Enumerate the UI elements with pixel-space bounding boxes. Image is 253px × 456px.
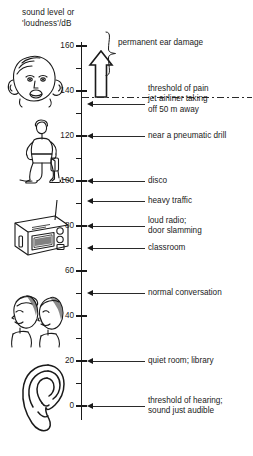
callout-arrowhead-icon [87,403,93,409]
callout-line [93,361,145,362]
callout-label: normal conversation [148,288,222,299]
callout-label: loud radio; door slamming [148,216,202,237]
permanent-ear-damage-brace [104,31,117,81]
callout-line [93,248,145,249]
callout-arrowhead-icon [87,133,93,139]
callout-label: threshold of hearing; sound just audible [148,396,223,417]
axis-title: sound level or 'loudness'/dB [22,7,74,29]
callout-label: near a pneumatic drill [148,131,226,142]
callout-label: disco [148,176,167,187]
y-axis-tick-60 [76,270,87,271]
permanent-ear-damage-label: permanent ear damage [118,38,203,47]
callout-label: jet airliner taking off 50 m away [148,94,208,115]
y-axis-tick-80 [76,225,87,226]
callout-line [93,201,145,202]
y-axis-minor-tick-130 [76,113,81,114]
callout-label: classroom [148,243,185,254]
y-axis-minor-tick-150 [76,68,81,69]
two-faces-conversation-illustration [8,292,72,352]
y-axis-tick-120 [76,135,87,136]
callout-arrowhead-icon [87,290,93,296]
callout-label: quiet room; library [148,356,214,367]
callout-arrowhead-icon [87,178,93,184]
callout-line [93,293,145,294]
threshold-of-pain-label: threshold of pain [148,84,209,93]
y-axis-tick-label-160: 160 [40,41,74,50]
y-axis-minor-tick-10 [76,383,81,384]
y-axis-line [81,42,82,420]
callout-arrowhead-icon [87,223,93,229]
callout-line [93,181,145,182]
y-axis-minor-tick-30 [76,338,81,339]
callout-line [93,136,145,137]
callout-arrowhead-icon [87,101,93,107]
y-axis-tick-140 [76,90,87,91]
callout-label: heavy traffic [148,196,192,207]
ear-illustration [18,362,70,438]
y-axis-tick-0 [76,405,87,406]
y-axis-tick-100 [76,180,87,181]
y-axis-tick-40 [76,315,87,316]
callout-line [93,406,145,407]
callout-arrowhead-icon [87,358,93,364]
y-axis-tick-20 [76,360,87,361]
radio-illustration [10,198,72,264]
callout-line [93,104,145,105]
sound-level-chart: sound level or 'loudness'/dB 16014012010… [0,0,253,456]
pneumatic-drill-worker-illustration [18,118,72,188]
y-axis-minor-tick-90 [76,203,81,204]
y-axis-minor-tick-110 [76,158,81,159]
y-axis-minor-tick-50 [76,293,81,294]
callout-arrowhead-icon [87,245,93,251]
callout-line [93,226,145,227]
y-axis-tick-label-60: 60 [40,266,74,275]
callout-arrowhead-icon [87,198,93,204]
y-axis-tick-160 [76,45,87,46]
screaming-face-ear-damage-illustration [6,52,72,112]
y-axis-minor-tick-70 [76,248,81,249]
